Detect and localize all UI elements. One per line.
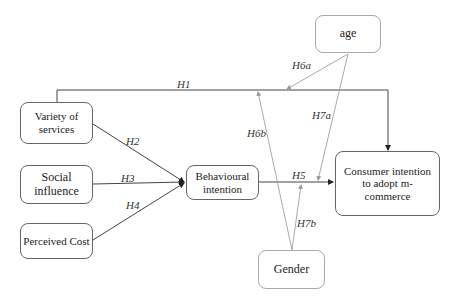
node-social-label: Social influence — [21, 171, 92, 199]
node-consumer-label: Consumer intention to adopt m-commerce — [342, 165, 433, 203]
node-age: age — [315, 15, 381, 53]
node-cost-label: Perceived Cost — [23, 235, 89, 248]
label-h1: H1 — [177, 78, 190, 90]
label-h2: H2 — [126, 135, 139, 147]
label-h7b: H7b — [297, 217, 316, 229]
edge-h6b — [258, 92, 292, 250]
edge-h2 — [93, 124, 184, 182]
edge-h3 — [93, 182, 184, 184]
node-perceived-cost: Perceived Cost — [20, 223, 93, 259]
node-behavioural-intention: Behavioural intention — [186, 165, 259, 200]
label-h4: H4 — [126, 199, 139, 211]
node-variety-label: Variety of services — [21, 110, 92, 135]
node-gender-label: Gender — [274, 263, 309, 277]
node-variety-of-services: Variety of services — [20, 102, 93, 144]
node-social-influence: Social influence — [20, 165, 93, 204]
label-h5: H5 — [292, 169, 305, 181]
node-consumer-intention: Consumer intention to adopt m-commerce — [335, 151, 440, 216]
label-h7a: H7a — [312, 109, 331, 121]
label-h6b: H6b — [247, 127, 266, 139]
edge-h4 — [93, 183, 184, 240]
label-h6a: H6a — [292, 59, 311, 71]
node-gender: Gender — [258, 250, 325, 289]
node-behavioural-label: Behavioural intention — [187, 170, 258, 195]
node-age-label: age — [340, 27, 357, 41]
edge-h1 — [57, 90, 388, 150]
label-h3: H3 — [121, 172, 134, 184]
